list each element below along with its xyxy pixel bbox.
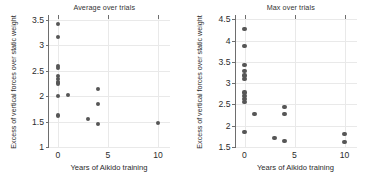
data-point [96, 122, 100, 126]
y-axis-tick-mark [232, 147, 236, 148]
gridline-horizontal [236, 62, 357, 63]
gridline-vertical [295, 15, 296, 147]
gridline-horizontal [236, 41, 357, 42]
gridline-horizontal [236, 83, 357, 84]
y-axis-tick-mark [232, 19, 236, 20]
data-point [242, 77, 246, 81]
plot-area: 11.522.533.50510 [48, 15, 170, 148]
y-axis-tick-mark [232, 41, 236, 42]
data-point [242, 27, 246, 31]
x-axis-tick-mark [108, 15, 109, 19]
x-axis-label: Years of Aikido training [48, 163, 170, 172]
data-point [242, 130, 246, 134]
gridline-horizontal [236, 126, 357, 127]
data-point [282, 112, 286, 116]
plot-area: 1.522.533.544.50510 [235, 15, 357, 148]
gridline-vertical [108, 15, 109, 147]
data-point [56, 66, 60, 70]
data-point [156, 121, 160, 125]
data-point [56, 35, 60, 39]
x-axis-tick-label: 10 [340, 151, 350, 160]
x-axis-tick-label: 0 [56, 151, 61, 160]
y-axis-label-text: Excess of vertical forces over static we… [196, 15, 204, 148]
data-point [342, 140, 346, 144]
data-point [342, 132, 346, 136]
gridline-horizontal [49, 147, 170, 148]
y-axis-tick-mark [232, 62, 236, 63]
y-axis-label: Excess of vertical forces over static we… [8, 15, 19, 148]
data-point [56, 22, 60, 26]
y-axis-tick-mark [46, 20, 50, 21]
y-axis-label-text: Excess of vertical forces over static we… [10, 15, 18, 148]
data-point [56, 81, 60, 85]
x-axis-tick-mark [295, 15, 296, 19]
y-axis-tick-mark [46, 122, 50, 123]
x-axis-tick-mark [245, 15, 246, 19]
x-axis-tick-label: 5 [106, 151, 111, 160]
y-axis-label: Excess of vertical forces over static we… [195, 15, 206, 148]
gridline-horizontal [49, 20, 170, 21]
y-axis-tick-mark [46, 71, 50, 72]
y-axis-tick-mark [46, 45, 50, 46]
y-axis-tick-mark [232, 126, 236, 127]
x-axis-tick-label: 0 [242, 151, 247, 160]
data-point [96, 102, 100, 106]
data-point [242, 100, 246, 104]
scatter-plot-figure: Average over trials Excess of vertical f… [0, 0, 373, 184]
data-point [86, 117, 90, 121]
gridline-horizontal [49, 71, 170, 72]
gridline-horizontal [236, 147, 357, 148]
x-axis-tick-label: 10 [153, 151, 163, 160]
panel-title: Max over trials [187, 3, 373, 12]
x-axis-tick-mark [58, 15, 59, 19]
panel-max-over-trials: Max over trials Excess of vertical force… [187, 0, 373, 184]
data-point [242, 63, 246, 67]
data-point [56, 94, 60, 98]
gridline-vertical [345, 15, 346, 147]
x-axis-tick-mark [158, 15, 159, 19]
gridline-horizontal [236, 19, 357, 20]
panel-title: Average over trials [0, 3, 187, 12]
data-point [242, 44, 246, 48]
gridline-horizontal [236, 104, 357, 105]
data-point [96, 87, 100, 91]
y-axis-tick-mark [232, 104, 236, 105]
panel-average-over-trials: Average over trials Excess of vertical f… [0, 0, 187, 184]
y-axis-tick-mark [46, 96, 50, 97]
data-point [252, 112, 256, 116]
x-axis-tick-label: 5 [292, 151, 297, 160]
x-axis-tick-mark [345, 15, 346, 19]
data-point [282, 105, 286, 109]
gridline-horizontal [49, 45, 170, 46]
data-point [56, 113, 60, 117]
data-point [282, 139, 286, 143]
y-axis-tick-mark [232, 83, 236, 84]
gridline-vertical [158, 15, 159, 147]
x-axis-label: Years of Aikido training [235, 163, 357, 172]
data-point [272, 136, 276, 140]
gridline-horizontal [49, 122, 170, 123]
gridline-vertical [245, 15, 246, 147]
y-axis-tick-mark [46, 147, 50, 148]
